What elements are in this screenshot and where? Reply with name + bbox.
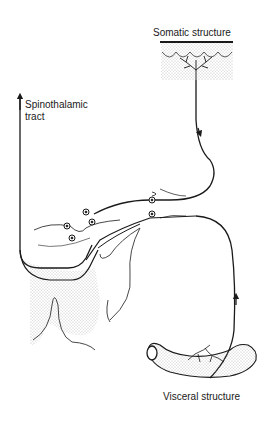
spinothalamic-label-line1: Spinothalamic — [25, 99, 88, 111]
spinothalamic-label-line2: tract — [25, 111, 44, 123]
visceral-structure-illustration — [147, 343, 256, 377]
somatic-structure-label: Somatic structure — [153, 27, 231, 39]
diagram-canvas — [0, 0, 272, 421]
somatic-structure-illustration — [160, 42, 233, 80]
spinal-cord-section — [22, 189, 186, 350]
visceral-structure-label: Visceral structure — [163, 391, 240, 403]
somatic-afferent-fibre — [94, 80, 214, 214]
